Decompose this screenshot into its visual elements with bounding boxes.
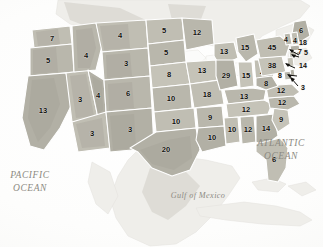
state-value-mo: 18 [203, 90, 211, 99]
state-value-pa: 38 [268, 61, 276, 70]
state-value-nv: 3 [78, 95, 82, 104]
callout-value-md: 8 [278, 72, 282, 79]
callout-value-de: 3 [301, 84, 305, 91]
gulf-of-mexico-label: Gulf of Mexico [171, 191, 226, 200]
state-value-la: 10 [208, 133, 216, 142]
state-value-va: 12 [277, 86, 285, 95]
state-value-ms: 10 [228, 125, 236, 134]
state-value-ny: 45 [268, 43, 277, 52]
state-value-wy: 3 [124, 59, 128, 68]
state-value-tn: 12 [242, 105, 250, 114]
state-value-mn: 12 [193, 28, 201, 37]
state-value-ks: 10 [167, 94, 175, 103]
state-value-az: 3 [90, 129, 94, 138]
state-value-co: 6 [126, 89, 130, 98]
callout-value-nj: 14 [299, 62, 307, 69]
atlantic-ocean-line2: OCEAN [264, 151, 298, 161]
state-value-ga: 14 [262, 124, 271, 133]
state-value-ne: 8 [167, 70, 171, 79]
atlantic-ocean-line1: ATLANTIC [256, 138, 305, 148]
state-value-nc: 12 [278, 98, 286, 107]
state-value-ia: 13 [198, 66, 206, 75]
state-value-ky: 13 [240, 92, 248, 101]
gulf-of-mexico-text: Gulf of Mexico [171, 191, 226, 200]
state-value-vt: 4 [284, 36, 288, 43]
state-value-wa: 7 [50, 34, 54, 43]
callout-value-ri: 5 [304, 49, 308, 56]
state-or[interactable] [30, 44, 74, 76]
state-value-wi: 13 [220, 47, 228, 56]
state-value-al: 12 [244, 125, 252, 134]
callout-value-ct: 7 [298, 48, 302, 55]
state-value-wv: 8 [264, 79, 268, 88]
state-value-ok: 10 [172, 117, 180, 126]
callout-value-ma: 18 [299, 39, 307, 46]
state-value-ar: 9 [208, 113, 212, 122]
state-value-mi: 15 [241, 43, 250, 52]
state-value-nh: 4 [293, 37, 297, 44]
pacific-ocean-line2: OCEAN [13, 183, 47, 193]
state-value-sc: 9 [279, 115, 283, 124]
state-value-il: 29 [222, 71, 230, 80]
us-map-svg: 7 5 13 3 4 4 3 4 3 6 [0, 0, 323, 247]
state-value-me: 6 [299, 26, 303, 35]
pacific-ocean-line1: PACIFIC [9, 170, 49, 180]
map-container: 7 5 13 3 4 4 3 4 3 6 [0, 0, 323, 247]
state-value-nm: 3 [128, 125, 132, 134]
pacific-ocean-label: PACIFIC OCEAN [9, 170, 49, 193]
state-value-tx: 20 [162, 145, 170, 154]
state-value-in: 15 [242, 71, 251, 80]
state-value-ca: 13 [39, 106, 47, 115]
